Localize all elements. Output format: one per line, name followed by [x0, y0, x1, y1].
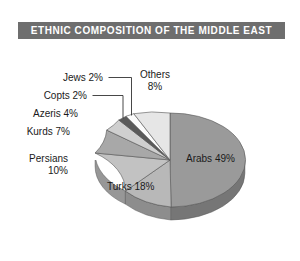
pie-label-others-name: Others — [140, 69, 170, 81]
pie-label-kurds: Kurds 7% — [27, 126, 70, 138]
pie-label-others-value: 8% — [140, 81, 170, 93]
pie-label-jews: Jews 2% — [63, 72, 103, 84]
pie-label-persians-value: 10% — [29, 165, 68, 177]
pie-label-persians: Persians 10% — [29, 153, 68, 176]
leader-line-jews — [109, 78, 132, 116]
page-title: ETHNIC COMPOSITION OF THE MIDDLE EAST — [31, 25, 272, 36]
pie-label-persians-name: Persians — [29, 153, 68, 165]
pie-label-others: Others 8% — [140, 69, 170, 92]
pie-label-azeris: Azeris 4% — [33, 108, 78, 120]
leader-line-copts — [93, 96, 124, 119]
pie-label-turks: Turks 18% — [107, 181, 154, 192]
pie-chart: Jews 2% Copts 2% Azeris 4% Kurds 7% Pers… — [0, 45, 300, 261]
chart-title-band: ETHNIC COMPOSITION OF THE MIDDLE EAST — [18, 22, 285, 39]
callout-leader-lines — [93, 78, 132, 119]
pie-label-copts: Copts 2% — [44, 90, 87, 102]
pie-label-arabs: Arabs 49% — [186, 153, 235, 164]
